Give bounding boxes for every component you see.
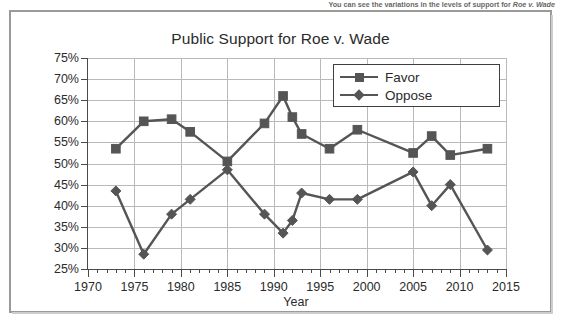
- x-axis-tick: [320, 269, 321, 277]
- y-axis-tick-label: 45%: [54, 178, 79, 192]
- data-point-diamond: [482, 245, 492, 255]
- x-axis-tick-label: 2010: [446, 280, 474, 294]
- caption-italic-case-name: Roe v. Wade: [513, 0, 555, 9]
- y-axis-tick: [81, 227, 88, 228]
- data-point-square: [139, 117, 148, 126]
- y-axis-tick-label: 30%: [54, 241, 79, 255]
- x-axis-tick: [88, 269, 89, 277]
- x-axis-minor-tick: [97, 269, 98, 273]
- x-axis-tick-label: 1995: [306, 280, 334, 294]
- x-axis-minor-tick: [357, 269, 358, 273]
- y-axis-tick: [81, 248, 88, 249]
- x-axis-tick: [181, 269, 182, 277]
- data-point-square: [409, 149, 418, 158]
- x-axis-minor-tick: [172, 269, 173, 273]
- legend-marker-diamond-icon: [340, 87, 378, 103]
- chart-legend: Favor Oppose: [333, 64, 500, 107]
- x-axis-tick: [134, 269, 135, 277]
- legend-label-oppose: Oppose: [385, 88, 432, 103]
- x-axis-minor-tick: [218, 269, 219, 273]
- x-axis-tick: [460, 269, 461, 277]
- y-axis-tick-label: 75%: [54, 51, 79, 65]
- data-point-diamond: [111, 186, 121, 196]
- data-point-square: [279, 92, 288, 101]
- data-point-diamond: [352, 194, 362, 204]
- x-axis-minor-tick: [497, 269, 498, 273]
- x-axis-title: Year: [87, 295, 505, 309]
- x-axis-tick-label: 1980: [167, 280, 195, 294]
- data-point-diamond: [297, 188, 307, 198]
- x-axis-minor-tick: [311, 269, 312, 273]
- legend-label-favor: Favor: [385, 70, 420, 85]
- x-axis-minor-tick: [125, 269, 126, 273]
- y-axis-tick: [81, 206, 88, 207]
- y-axis-tick: [81, 142, 88, 143]
- x-axis-minor-tick: [487, 269, 488, 273]
- x-axis-tick-label: 2015: [492, 280, 520, 294]
- figure-frame: Public Support for Roe v. Wade 25%30%35%…: [9, 10, 552, 313]
- chart-title: Public Support for Roe v. Wade: [11, 30, 550, 48]
- x-axis-minor-tick: [209, 269, 210, 273]
- x-axis-minor-tick: [422, 269, 423, 273]
- y-axis-tick: [81, 185, 88, 186]
- x-axis-minor-tick: [302, 269, 303, 273]
- y-axis-tick-label: 55%: [54, 135, 79, 149]
- y-axis-tick-label: 25%: [54, 262, 79, 276]
- legend-marker-square-icon: [340, 69, 378, 85]
- x-axis-minor-tick: [404, 269, 405, 273]
- x-axis-tick: [413, 269, 414, 277]
- x-axis-minor-tick: [376, 269, 377, 273]
- x-axis-tick-label: 2005: [399, 280, 427, 294]
- x-axis-minor-tick: [283, 269, 284, 273]
- data-point-square: [186, 128, 195, 137]
- data-point-square: [353, 125, 362, 134]
- x-axis-minor-tick: [478, 269, 479, 273]
- x-axis-minor-tick: [450, 269, 451, 273]
- y-axis-tick: [81, 121, 88, 122]
- x-axis-minor-tick: [348, 269, 349, 273]
- x-axis-tick-label: 2000: [353, 280, 381, 294]
- x-axis-minor-tick: [255, 269, 256, 273]
- x-axis-minor-tick: [246, 269, 247, 273]
- x-axis-minor-tick: [153, 269, 154, 273]
- data-point-square: [167, 115, 176, 124]
- x-axis-minor-tick: [107, 269, 108, 273]
- y-axis-tick-label: 70%: [54, 72, 79, 86]
- data-point-square: [427, 132, 436, 141]
- x-axis-tick-label: 1990: [260, 280, 288, 294]
- data-point-square: [260, 119, 269, 128]
- y-axis-tick-label: 35%: [54, 220, 79, 234]
- x-axis-minor-tick: [292, 269, 293, 273]
- x-axis-minor-tick: [441, 269, 442, 273]
- x-axis-minor-tick: [264, 269, 265, 273]
- x-axis-minor-tick: [330, 269, 331, 273]
- legend-item-oppose: Oppose: [340, 86, 499, 104]
- y-axis-tick-label: 60%: [54, 114, 79, 128]
- data-point-square: [446, 151, 455, 160]
- y-axis-tick-label: 65%: [54, 93, 79, 107]
- x-axis-tick: [274, 269, 275, 277]
- legend-item-favor: Favor: [340, 68, 499, 86]
- data-point-square: [297, 130, 306, 139]
- x-axis-tick: [367, 269, 368, 277]
- caption-text: You can see the variations in the levels…: [328, 0, 512, 9]
- y-axis-tick: [81, 100, 88, 101]
- series-oppose: [111, 165, 493, 259]
- y-axis-tick: [81, 58, 88, 59]
- x-axis-minor-tick: [190, 269, 191, 273]
- data-point-square: [325, 144, 334, 153]
- document-caption: You can see the variations in the levels…: [0, 0, 561, 9]
- x-axis-tick-label: 1985: [213, 280, 241, 294]
- x-axis-minor-tick: [395, 269, 396, 273]
- x-axis-tick: [227, 269, 228, 277]
- x-axis-minor-tick: [162, 269, 163, 273]
- data-point-diamond: [408, 167, 418, 177]
- x-axis-tick-label: 1970: [74, 280, 102, 294]
- x-axis-tick: [506, 269, 507, 277]
- x-axis-minor-tick: [385, 269, 386, 273]
- x-axis-minor-tick: [116, 269, 117, 273]
- x-axis-minor-tick: [199, 269, 200, 273]
- data-point-diamond: [325, 194, 335, 204]
- y-axis-tick: [81, 79, 88, 80]
- x-axis-minor-tick: [237, 269, 238, 273]
